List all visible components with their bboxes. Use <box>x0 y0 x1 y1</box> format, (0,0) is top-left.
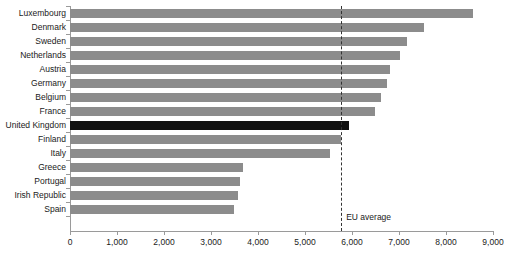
bar-france[interactable] <box>70 107 375 116</box>
eu-average-line <box>341 6 342 231</box>
category-label-irish-republic: Irish Republic <box>0 188 66 202</box>
bar-finland[interactable] <box>70 135 341 144</box>
x-axis-label: 7,000 <box>388 237 409 247</box>
bar-belgium[interactable] <box>70 93 381 102</box>
category-label-italy: Italy <box>0 146 66 160</box>
y-axis-tick <box>66 6 70 7</box>
bar-row <box>70 118 493 132</box>
category-label-united-kingdom: United Kingdom <box>0 118 66 132</box>
y-axis-tick <box>66 160 70 161</box>
bar-row <box>70 202 493 216</box>
x-axis-label: 1,000 <box>106 237 127 247</box>
category-label-germany: Germany <box>0 76 66 90</box>
y-axis-tick <box>66 76 70 77</box>
bar-row <box>70 188 493 202</box>
bar-greece[interactable] <box>70 163 243 172</box>
x-axis-label: 6,000 <box>341 237 362 247</box>
x-axis-tick <box>164 231 165 235</box>
category-label-france: France <box>0 104 66 118</box>
bar-row <box>70 6 493 20</box>
x-axis-tick <box>399 231 400 235</box>
category-label-belgium: Belgium <box>0 90 66 104</box>
category-label-netherlands: Netherlands <box>0 48 66 62</box>
x-axis-tick <box>493 231 494 235</box>
y-axis-tick <box>66 174 70 175</box>
bar-portugal[interactable] <box>70 177 240 186</box>
y-axis-tick <box>66 90 70 91</box>
bar-row <box>70 146 493 160</box>
bar-row <box>70 48 493 62</box>
x-axis-label: 0 <box>68 237 73 247</box>
bar-irish-republic[interactable] <box>70 191 238 200</box>
x-axis-tick <box>117 231 118 235</box>
bar-italy[interactable] <box>70 149 330 158</box>
y-axis-tick <box>66 48 70 49</box>
y-axis-tick <box>66 20 70 21</box>
bar-denmark[interactable] <box>70 23 424 32</box>
x-axis-label: 2,000 <box>153 237 174 247</box>
y-axis-tick <box>66 118 70 119</box>
bar-sweden[interactable] <box>70 37 407 46</box>
y-axis-tick <box>66 132 70 133</box>
category-label-spain: Spain <box>0 202 66 216</box>
bar-netherlands[interactable] <box>70 51 400 60</box>
bar-row <box>70 160 493 174</box>
bar-luxembourg[interactable] <box>70 9 473 18</box>
y-axis-tick <box>66 202 70 203</box>
category-label-denmark: Denmark <box>0 20 66 34</box>
y-axis-tick <box>66 188 70 189</box>
y-axis-tick <box>66 104 70 105</box>
x-axis-tick <box>305 231 306 235</box>
x-axis-line <box>70 231 494 232</box>
category-label-portugal: Portugal <box>0 174 66 188</box>
x-axis-tick <box>211 231 212 235</box>
bar-spain[interactable] <box>70 205 234 214</box>
bar-germany[interactable] <box>70 79 387 88</box>
category-label-luxembourg: Luxembourg <box>0 6 66 20</box>
plot-area <box>70 6 493 230</box>
bar-rows <box>70 6 493 230</box>
x-axis-label: 5,000 <box>294 237 315 247</box>
x-axis-label: 4,000 <box>247 237 268 247</box>
x-axis-tick <box>70 231 71 235</box>
bar-united-kingdom[interactable] <box>70 121 349 130</box>
bar-row <box>70 90 493 104</box>
bar-chart: LuxembourgDenmarkSwedenNetherlandsAustri… <box>0 0 510 257</box>
x-axis-tick <box>258 231 259 235</box>
eu-average-label: EU average <box>346 212 391 222</box>
y-axis-tick <box>66 146 70 147</box>
category-label-sweden: Sweden <box>0 34 66 48</box>
x-axis-tick <box>446 231 447 235</box>
category-label-greece: Greece <box>0 160 66 174</box>
y-axis-tick <box>66 34 70 35</box>
category-label-finland: Finland <box>0 132 66 146</box>
x-axis-tick <box>352 231 353 235</box>
y-axis-tick <box>66 62 70 63</box>
bar-row <box>70 104 493 118</box>
bar-row <box>70 132 493 146</box>
bar-row <box>70 174 493 188</box>
x-axis-label: 3,000 <box>200 237 221 247</box>
category-label-austria: Austria <box>0 62 66 76</box>
bar-row <box>70 20 493 34</box>
x-axis-label: 8,000 <box>435 237 456 247</box>
bar-row <box>70 62 493 76</box>
y-axis-tick <box>66 216 70 217</box>
x-axis-label: 9,000 <box>482 237 503 247</box>
bar-row <box>70 76 493 90</box>
bar-row <box>70 34 493 48</box>
